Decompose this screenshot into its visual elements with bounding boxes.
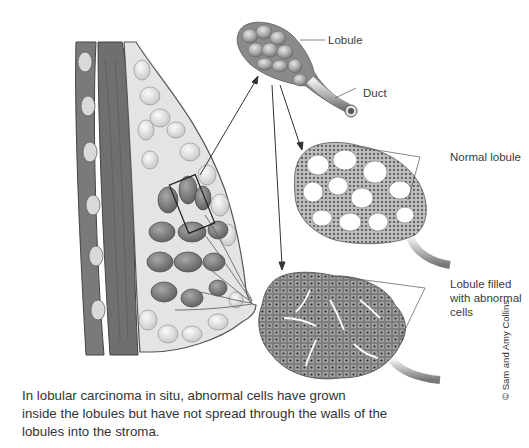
label-abnormal-line1: Lobule filled (450, 277, 522, 291)
label-duct: Duct (363, 86, 387, 100)
illustration (0, 0, 529, 448)
copyright-credit: © Sam and Amy Collins (500, 300, 511, 400)
caption-line3: lobules into the stroma. (22, 423, 402, 441)
caption-line2: inside the lobules but have not spread t… (22, 405, 402, 423)
normal-lobule (295, 142, 450, 265)
figure-caption: In lobular carcinoma in situ, abnormal c… (22, 387, 402, 441)
caption-line1: In lobular carcinoma in situ, abnormal c… (22, 387, 402, 405)
label-lobule: Lobule (328, 33, 363, 47)
abnormal-lobule (259, 272, 440, 380)
lcis-diagram: Lobule Duct Normal lobule Lobule filled … (0, 0, 529, 448)
breast-cross-section (76, 42, 256, 355)
label-normal-lobule: Normal lobule (450, 150, 521, 164)
